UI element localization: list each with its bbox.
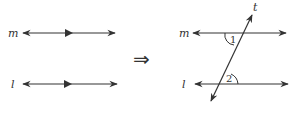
parallel-mark-icon (65, 29, 73, 37)
transversal-label: t (253, 1, 258, 14)
line-l-label: l (182, 78, 186, 91)
angle-1-label: 1 (230, 34, 236, 45)
line-m-label: m (179, 27, 189, 40)
parallel-mark-icon (64, 80, 72, 88)
transversal-t (211, 15, 252, 101)
line-l-label: l (11, 78, 15, 91)
angle-2-label: 2 (226, 73, 232, 84)
right-panel: m l t 1 2 (179, 1, 288, 101)
implies-arrow-icon: ⇒ (133, 47, 150, 71)
left-panel: m l (8, 27, 117, 91)
line-m-label: m (8, 27, 18, 40)
parallel-lines-diagram: m l ⇒ m l t 1 2 (0, 0, 298, 114)
